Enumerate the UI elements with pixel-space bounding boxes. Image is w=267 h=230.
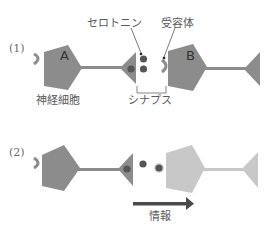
synapse-diagram: A B [0,0,267,230]
information-label: 情報 [149,211,171,222]
panel-2-label: (2) [9,147,25,158]
serotonin-dot [140,65,147,72]
panel-1-label: (1) [9,43,25,54]
receptor-icon-left [34,158,38,168]
receptor-icon-b [162,60,166,72]
serotonin-label: セロトニン [87,18,142,29]
receptor-icon-a-left [34,54,38,64]
neuron-b-body-2 [166,145,205,193]
information-arrow-head [186,197,194,210]
leader-dot [140,53,143,56]
panel-1: A B [34,28,260,93]
serotonin-dot [155,164,162,171]
axon-a-2 [78,168,122,171]
panel-2 [34,145,258,210]
neuron-a-letter: A [60,48,69,63]
neuron-a-body-2 [42,145,80,191]
axon-a [80,66,124,69]
information-arrow-shaft [133,202,187,206]
neuron-b-letter: B [186,48,195,63]
serotonin-dot [139,160,146,167]
neuron-label: 神経細胞 [36,95,80,106]
leader-dot [163,57,166,60]
receptor-label: 受容体 [161,18,194,29]
axon-terminal-b-2 [242,152,258,188]
axon-terminal-b [244,52,260,86]
vesicle-dot [123,165,130,172]
synapse-bracket [137,86,166,93]
serotonin-leader-line [131,28,141,53]
synapse-label: シナプス [128,95,172,106]
axon-b-2 [203,168,245,171]
vesicle-dot [127,65,134,72]
axon-b [205,67,247,70]
serotonin-dot [140,55,147,62]
